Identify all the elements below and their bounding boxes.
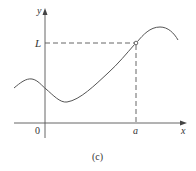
L-label: L [34,37,41,49]
limit-diagram: y L 0 a x (c) [0,0,196,171]
x-axis-label: x [180,125,186,136]
y-axis [43,8,48,138]
a-label: a [133,125,138,136]
y-axis-arrow-icon [43,8,48,15]
caption: (c) [92,151,103,163]
hollow-point [134,41,138,45]
origin-label: 0 [35,125,40,136]
function-curve-right [138,27,179,42]
y-axis-label: y [36,5,42,16]
function-curve [14,45,135,103]
